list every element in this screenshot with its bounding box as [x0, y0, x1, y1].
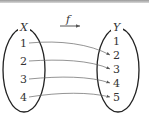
domain-set: X 1 2 3 4: [3, 21, 45, 112]
mapping-arrows: [29, 42, 110, 97]
domain-element: 1: [20, 37, 27, 50]
domain-name: X: [19, 21, 29, 34]
codomain-element: 4: [113, 77, 120, 90]
function-mapping-diagram: f X 1 2 3 4 Y 1 2 3 4 5: [0, 0, 149, 127]
function-name: f: [65, 13, 72, 26]
codomain-element: 2: [113, 49, 120, 62]
codomain-element: 1: [113, 35, 120, 48]
function-label: f: [60, 13, 80, 26]
codomain-element: 5: [113, 91, 120, 104]
domain-element: 2: [20, 55, 27, 68]
codomain-element: 3: [113, 63, 120, 76]
domain-element: 3: [20, 73, 27, 86]
domain-element: 4: [20, 91, 27, 104]
